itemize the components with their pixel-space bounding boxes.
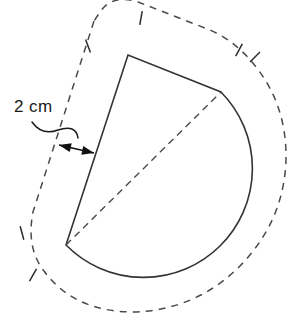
geometry-figure: 2 cm [0, 0, 304, 327]
tick-marks [20, 11, 260, 281]
arrow-head-start-icon [59, 143, 72, 152]
tick-top-icon [140, 11, 142, 25]
sector-shape [66, 55, 252, 277]
tick-left-lower-icon [30, 269, 37, 281]
radius-dashed-line [66, 92, 221, 245]
tick-left-upper-icon [20, 226, 24, 240]
tick-top-right-b-icon [250, 52, 260, 62]
offset-boundary-outline [31, 0, 286, 312]
figure-canvas: 2 cm [0, 0, 304, 327]
dimension-arrow [59, 143, 94, 154]
curved-leader-line [32, 122, 78, 138]
dimension-label: 2 cm [14, 97, 52, 116]
arrow-head-end-icon [81, 146, 94, 155]
